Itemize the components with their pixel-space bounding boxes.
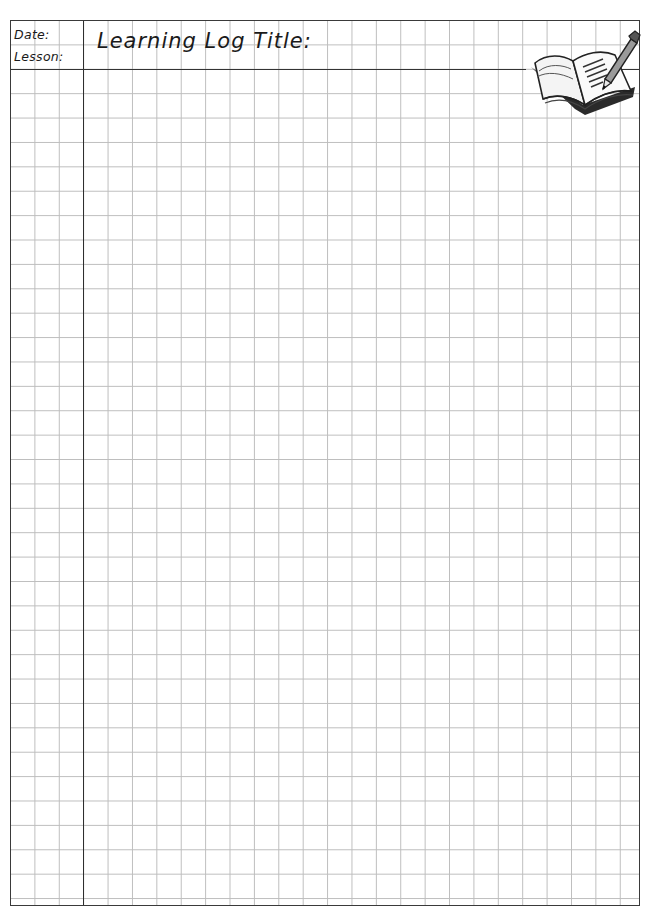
header-divider (11, 69, 526, 70)
graph-paper-page: Date: Lesson: Learning Log Title: (10, 20, 640, 906)
open-book-with-pencil-icon (523, 27, 641, 119)
lesson-label: Lesson: (14, 49, 64, 64)
margin-line (83, 21, 84, 905)
learning-log-title: Learning Log Title: (97, 29, 312, 53)
date-label: Date: (14, 27, 50, 42)
